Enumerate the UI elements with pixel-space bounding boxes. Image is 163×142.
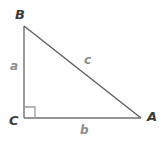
side-label-b: b — [80, 124, 89, 136]
vertex-label-a: A — [147, 110, 157, 123]
side-label-c: c — [84, 54, 91, 66]
vertex-label-c: C — [9, 114, 19, 127]
side-label-a: a — [10, 60, 18, 72]
right-angle-marker-icon — [24, 107, 35, 118]
right-triangle-figure: B C A a b c — [0, 0, 163, 142]
vertex-label-b: B — [15, 8, 25, 21]
side-c-hypotenuse-line — [24, 26, 141, 118]
